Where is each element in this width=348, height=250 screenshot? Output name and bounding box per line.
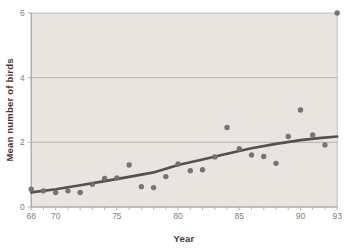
data-point [200, 167, 205, 172]
y-tick-label: 0 [20, 202, 25, 212]
x-tick-label: 75 [112, 211, 122, 221]
data-point [29, 187, 34, 192]
data-point [77, 190, 82, 195]
data-point [298, 107, 303, 112]
y-axis-title: Mean number of birds [4, 58, 15, 161]
y-tick-label: 6 [20, 8, 25, 18]
x-tick-label: 70 [51, 211, 61, 221]
data-point [249, 152, 254, 157]
data-point [163, 174, 168, 179]
data-point [90, 182, 95, 187]
scatterplot-canvas: 687075808590930246 [0, 0, 348, 250]
data-point [310, 132, 315, 137]
data-point [126, 162, 131, 167]
y-tick-label: 4 [20, 73, 25, 83]
x-axis-title: Year [174, 233, 195, 244]
data-point [335, 10, 340, 15]
x-tick-label: 93 [332, 211, 342, 221]
x-tick-label: 90 [296, 211, 306, 221]
data-point [151, 185, 156, 190]
data-point [261, 154, 266, 159]
data-point [102, 176, 107, 181]
y-tick-label: 2 [20, 137, 25, 147]
data-point [322, 142, 327, 147]
data-point [188, 168, 193, 173]
x-tick-label: 85 [235, 211, 245, 221]
x-tick-label: 80 [173, 211, 183, 221]
data-point [139, 184, 144, 189]
data-point [53, 190, 58, 195]
data-point [212, 154, 217, 159]
data-point [114, 175, 119, 180]
x-tick-label: 68 [26, 211, 36, 221]
chart-figure: 687075808590930246 Mean number of birds … [0, 0, 348, 250]
plot-area [31, 13, 337, 207]
data-point [175, 161, 180, 166]
data-point [286, 134, 291, 139]
data-point [273, 161, 278, 166]
data-point [41, 188, 46, 193]
data-point [224, 125, 229, 130]
data-point [237, 146, 242, 151]
data-point [65, 188, 70, 193]
